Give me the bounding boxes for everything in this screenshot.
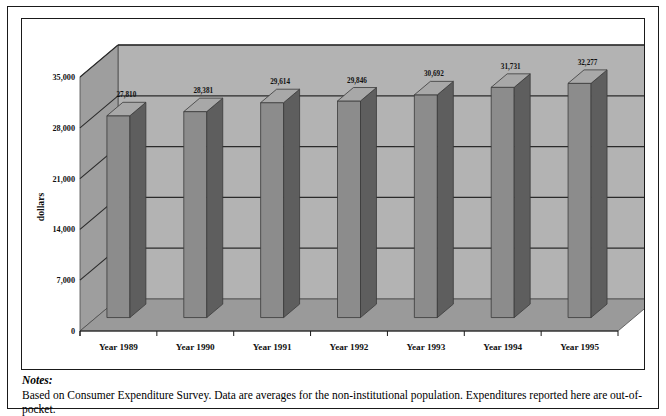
bar-front-face: [338, 101, 361, 318]
bar-side-face: [207, 98, 223, 317]
bar-value-label: 29,614: [270, 78, 290, 86]
y-tick-label: 35,000: [52, 73, 75, 82]
x-category-label: Year 1989: [99, 342, 138, 352]
x-category-label: Year 1993: [406, 342, 445, 352]
bar-value-label: 30,692: [424, 70, 444, 78]
bar-side-face: [130, 102, 146, 317]
y-tick-label: 0: [71, 327, 75, 336]
bar-side-face: [514, 74, 530, 318]
bar-front-face: [184, 112, 207, 318]
bar-value-label: 29,846: [347, 77, 367, 85]
x-category-label: Year 1995: [560, 342, 599, 352]
y-tick-label: 28,000: [52, 124, 75, 133]
bar-side-face: [284, 89, 300, 317]
bar-front-face: [491, 87, 514, 317]
bar-front-face: [414, 95, 437, 318]
bar-value-label: 27,810: [117, 91, 137, 99]
bar-side-face: [361, 88, 377, 318]
bar-front-face: [107, 116, 130, 318]
bar-front-face: [261, 103, 284, 318]
bar-value-label: 28,381: [193, 87, 213, 95]
y-tick-label: 21,000: [52, 175, 75, 184]
y-tick-label: 14,000: [52, 225, 75, 234]
bar-side-face: [591, 70, 607, 318]
bar-side-face: [437, 81, 453, 317]
chart-frame: 07,00014,00021,00028,00035,000dollars27,…: [21, 18, 645, 370]
notes-heading: Notes:: [22, 374, 644, 387]
x-category-label: Year 1992: [330, 342, 369, 352]
x-category-label: Year 1994: [483, 342, 522, 352]
bar-chart: 07,00014,00021,00028,00035,000dollars27,…: [22, 19, 644, 369]
y-axis-title: dollars: [35, 193, 46, 222]
bar-value-label: 31,731: [501, 63, 521, 71]
x-category-label: Year 1991: [253, 342, 292, 352]
x-category-label: Year 1990: [176, 342, 215, 352]
y-tick-label: 7,000: [57, 276, 75, 285]
notes-block: Notes: Based on Consumer Expenditure Sur…: [22, 374, 644, 416]
bar-value-label: 32,277: [578, 59, 598, 67]
notes-body: Based on Consumer Expenditure Survey. Da…: [22, 388, 644, 416]
bar-front-face: [568, 83, 591, 317]
